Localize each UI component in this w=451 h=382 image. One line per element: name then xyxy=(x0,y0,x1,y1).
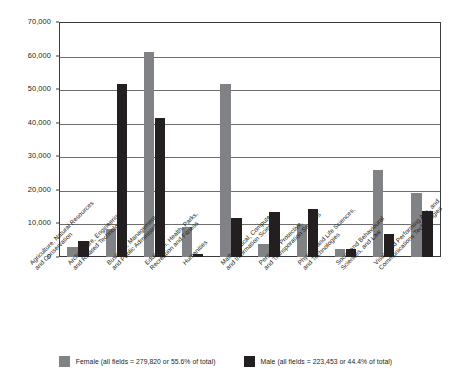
y-tick-label: 50,000 xyxy=(28,85,51,92)
y-tick-label: 40,000 xyxy=(28,119,51,126)
y-tick-label: 60,000 xyxy=(28,52,51,59)
legend-item-male: Male (all fields = 223,453 or 44.4% of t… xyxy=(244,356,393,367)
chart-legend: Female (all fields = 279,820 or 55.6% of… xyxy=(0,356,451,367)
bar-male xyxy=(117,84,128,257)
y-tick-label: 70,000 xyxy=(28,18,51,25)
legend-label-male: Male (all fields = 223,453 or 44.4% of t… xyxy=(261,358,393,366)
legend-swatch-male-icon xyxy=(244,356,255,367)
bar-female xyxy=(373,170,384,257)
legend-label-female: Female (all fields = 279,820 or 55.6% of… xyxy=(76,358,216,366)
bar-group xyxy=(212,22,250,257)
x-axis-category-labels: Agriculture, Natural Resourcesand Conser… xyxy=(0,257,451,352)
y-tick-label: 20,000 xyxy=(28,186,51,193)
bar-male xyxy=(155,118,166,257)
legend-swatch-female-icon xyxy=(59,356,70,367)
legend-item-female: Female (all fields = 279,820 or 55.6% of… xyxy=(59,356,216,367)
y-tick-label: 30,000 xyxy=(28,153,51,160)
bar-female xyxy=(220,84,231,257)
y-tick-label: 10,000 xyxy=(28,220,51,227)
bar-chart: 70,00060,00050,00040,00030,00020,00010,0… xyxy=(0,0,451,382)
